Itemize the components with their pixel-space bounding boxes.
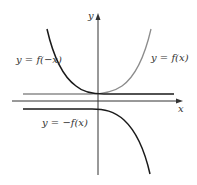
label-f-neg-x: y = f(−x) bbox=[15, 54, 62, 65]
y-axis-arrow-icon bbox=[96, 13, 101, 20]
label-neg-f-x: y = −f(x) bbox=[41, 117, 88, 128]
x-axis-label: x bbox=[178, 103, 184, 114]
graph-canvas: y x y = f(−x) y = f(x) y = −f(x) bbox=[0, 0, 197, 185]
label-f-x: y = f(x) bbox=[150, 52, 189, 63]
y-axis-label: y bbox=[87, 10, 94, 21]
